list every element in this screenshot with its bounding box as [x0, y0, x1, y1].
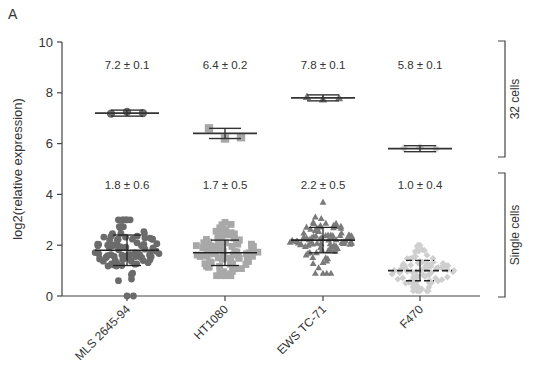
x-tick-label: MLS 2645-94 [72, 302, 133, 363]
bracket-32-cells [498, 41, 505, 157]
y-axis-ticks: 0246810 [39, 35, 62, 304]
x-tick-label: HT1080 [191, 302, 231, 342]
y-tick-label: 4 [46, 187, 53, 202]
bracket-label-32-cells: 32 cells [508, 79, 522, 120]
dot-plot-chart: A 0246810 MLS 2645-94HT1080EWS TC-71F470… [0, 0, 535, 376]
x-tick-label: EWS TC-71 [274, 302, 329, 357]
mean-sd-label: 7.2 ± 0.1 [105, 59, 150, 71]
y-tick-label: 8 [46, 85, 53, 100]
mean-sd-label: 1.7 ± 0.5 [203, 179, 248, 191]
mean-sd-label: 1.0 ± 0.4 [398, 179, 443, 191]
y-tick-label: 10 [39, 35, 53, 50]
mean-sd-label: 1.8 ± 0.6 [105, 179, 150, 191]
mean-sd-label: 5.8 ± 0.1 [398, 59, 443, 71]
bracket-single-cells [498, 173, 505, 297]
y-tick-label: 2 [46, 238, 53, 253]
x-axis-ticks: MLS 2645-94HT1080EWS TC-71F470 [72, 296, 426, 363]
y-tick-label: 6 [46, 136, 53, 151]
mean-sd-label: 6.4 ± 0.2 [203, 59, 248, 71]
data-points [92, 92, 458, 299]
mean-sd-label: 2.2 ± 0.5 [301, 179, 346, 191]
mean-sd-annotations: 7.2 ± 0.16.4 ± 0.27.8 ± 0.15.8 ± 0.11.8 … [105, 59, 443, 191]
mean-sd-label: 7.8 ± 0.1 [301, 59, 346, 71]
y-axis-label: log2(relative expression) [10, 98, 25, 240]
bracket-label-single-cells: Single cells [508, 205, 522, 266]
x-tick-label: F470 [397, 302, 426, 331]
panel-label: A [8, 6, 18, 22]
y-tick-label: 0 [46, 289, 53, 304]
